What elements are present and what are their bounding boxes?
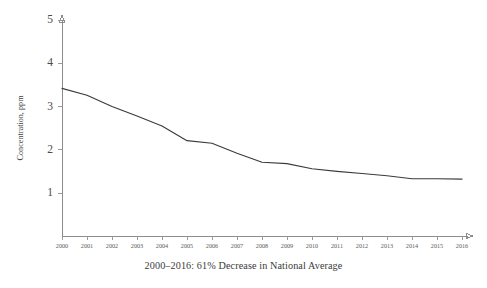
y-axis-title: Concentration, ppm [16,95,25,161]
line-chart-plot: 12345 Concentration, ppm 200020012002200… [0,0,487,288]
x-tick-label: 2016 [456,242,468,249]
y-tick-marks [58,20,62,193]
x-tick-label: 2009 [281,242,293,249]
chart-caption: 2000–2016: 61% Decrease in National Aver… [0,260,487,271]
data-series-group [62,88,462,179]
x-tick-label: 2002 [106,242,118,249]
x-tick-labels: 2000200120022003200420052006200720082009… [56,242,468,249]
x-tick-label: 2003 [131,242,143,249]
x-tick-label: 2008 [256,242,268,249]
y-tick-label: 5 [47,13,53,25]
y-tick-labels: 12345 [47,13,53,198]
y-tick-label: 2 [47,143,53,155]
x-tick-label: 2013 [381,242,393,249]
series-line-national-average [62,88,462,179]
x-tick-label: 2007 [231,242,243,249]
x-tick-label: 2014 [406,242,418,249]
x-tick-label: 2012 [356,242,368,249]
x-tick-label: 2000 [56,242,68,249]
y-tick-label: 4 [47,56,53,68]
x-tick-label: 2015 [431,242,443,249]
x-tick-label: 2011 [331,242,343,249]
y-axis: 12345 Concentration, ppm [16,13,65,236]
x-tick-label: 2010 [306,242,318,249]
x-tick-label: 2004 [156,242,168,249]
x-tick-label: 2006 [206,242,218,249]
y-tick-label: 1 [47,186,53,198]
chart-container: 12345 Concentration, ppm 200020012002200… [0,0,487,288]
x-tick-label: 2001 [81,242,93,249]
x-tick-marks [62,236,462,240]
x-axis: 2000200120022003200420052006200720082009… [56,233,473,249]
y-tick-label: 3 [47,100,53,112]
x-tick-label: 2005 [181,242,193,249]
